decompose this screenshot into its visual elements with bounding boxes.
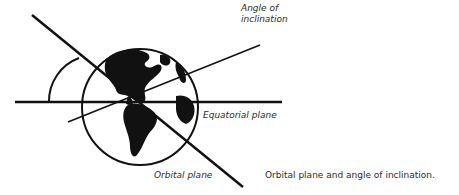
angle-label-line1: Angle of <box>241 3 311 14</box>
angle-of-inclination-label: Angle of inclination <box>241 3 311 25</box>
orbital-inclination-diagram <box>0 0 459 195</box>
angle-label-line2: inclination <box>241 14 311 25</box>
inclination-arc <box>49 58 79 102</box>
orbital-plane-label: Orbital plane <box>154 170 212 181</box>
figure-caption: Orbital plane and angle of inclination. <box>265 170 435 181</box>
equatorial-plane-label: Equatorial plane <box>203 110 277 121</box>
